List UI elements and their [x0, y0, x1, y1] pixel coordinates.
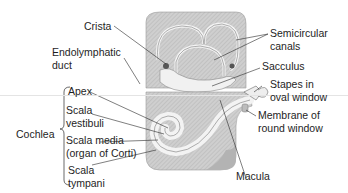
- label-apex: Apex: [68, 85, 92, 97]
- label-scala-tympani-line2: tympani: [68, 177, 105, 189]
- label-endolymphatic-duct-line2: duct: [52, 59, 72, 71]
- label-macula: Macula: [236, 170, 270, 182]
- label-semicircular-canals-line2: canals: [270, 40, 300, 52]
- label-round-window-line2: round window: [258, 122, 323, 134]
- label-cochlea: Cochlea: [16, 128, 55, 140]
- label-semicircular-canals: Semicircular: [270, 27, 328, 39]
- inner-ear-diagram: Crista Endolymphatic duct Semicircular c…: [0, 0, 348, 193]
- label-scala-tympani: Scala: [68, 164, 94, 176]
- label-stapes: Stapes in: [270, 78, 314, 90]
- label-stapes-line2: oval window: [270, 91, 327, 103]
- label-scala-vestibuli: Scala: [66, 104, 92, 116]
- label-endolymphatic-duct: Endolymphatic: [52, 46, 121, 58]
- label-crista: Crista: [84, 20, 111, 32]
- sacculus-spot: [230, 64, 235, 69]
- label-scala-media-line2: (organ of Corti): [66, 147, 137, 159]
- label-scala-vestibuli-line2: vestibuli: [66, 117, 104, 129]
- label-sacculus: Sacculus: [262, 60, 305, 72]
- label-round-window: Membrane of: [258, 109, 320, 121]
- label-scala-media: Scala media: [66, 134, 124, 146]
